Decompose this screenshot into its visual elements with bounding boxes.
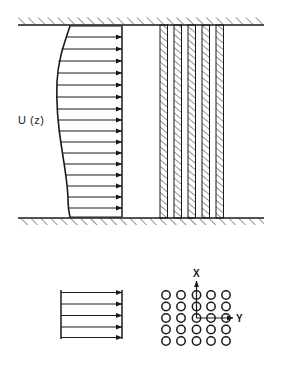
rod-circle (207, 337, 215, 345)
y-axis-label: Y (236, 313, 243, 324)
rod-circle (177, 337, 185, 345)
rod-circle (207, 302, 215, 310)
rod-3 (188, 25, 196, 218)
rod-circle (177, 291, 185, 299)
bottom-wall (18, 218, 264, 225)
x-axis-label: X (193, 268, 200, 279)
rod-2 (174, 25, 182, 218)
rod-circle (162, 291, 170, 299)
technical-diagram-canvas: U (z) (0, 0, 282, 387)
rod-circle (162, 337, 170, 345)
rod-circle (222, 291, 230, 299)
rod-circle (177, 325, 185, 333)
rod-1 (160, 25, 168, 218)
rod-circle (192, 337, 200, 345)
rod-array-side-view (160, 25, 224, 218)
rod-circle (162, 325, 170, 333)
top-wall-hatching (18, 18, 264, 25)
bottom-wall-hatching (18, 218, 264, 225)
rod-circle (192, 325, 200, 333)
figure-root: U (z) (0, 0, 282, 387)
velocity-profile-curve (57, 26, 70, 217)
top-channel-panel: U (z) (18, 18, 264, 226)
uniform-arrow-group (61, 293, 122, 338)
rod-circle (207, 325, 215, 333)
top-wall (18, 18, 264, 26)
rod-5 (216, 25, 224, 218)
rod-circle (222, 302, 230, 310)
rod-circle (162, 314, 170, 322)
rod-circle (162, 302, 170, 310)
rod-circle (177, 302, 185, 310)
rod-circle (222, 337, 230, 345)
rod-lattice-plan-view: X Y (162, 268, 243, 345)
rod-circle (177, 314, 185, 322)
rod-circle (207, 291, 215, 299)
rod-circle (222, 325, 230, 333)
uniform-profile-panel (61, 290, 122, 339)
rod-4 (202, 25, 210, 218)
velocity-profile-label: U (z) (18, 114, 44, 126)
